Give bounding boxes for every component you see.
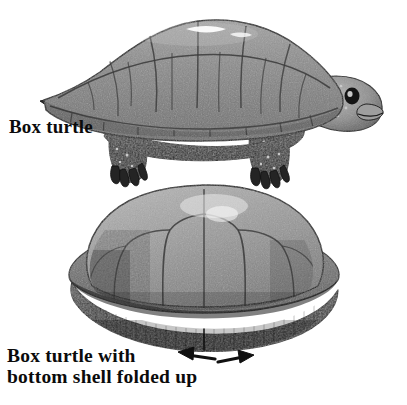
label-box-turtle-text: Box turtle bbox=[9, 116, 93, 137]
turtle-eye bbox=[345, 88, 360, 105]
figure-root: Box turtle Box turtle with bottom shell … bbox=[0, 0, 407, 405]
label-box-turtle-folded: Box turtle with bottom shell folded up bbox=[7, 345, 197, 387]
label-folded-line-1: Box turtle with bbox=[7, 345, 197, 366]
label-box-turtle: Box turtle bbox=[9, 117, 93, 138]
label-folded-line-2: bottom shell folded up bbox=[7, 366, 197, 387]
